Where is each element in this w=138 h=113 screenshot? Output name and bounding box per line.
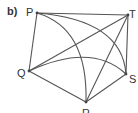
segment-QR bbox=[29, 71, 86, 102]
part-label: b) bbox=[7, 5, 18, 17]
segment-ST bbox=[126, 15, 128, 74]
label-T: T bbox=[129, 8, 136, 20]
label-P: P bbox=[26, 6, 33, 18]
label-S: S bbox=[129, 73, 136, 85]
segment-PQ bbox=[29, 13, 37, 71]
vertex-P bbox=[36, 12, 39, 15]
geometry-diagram: b) P T Q S R bbox=[0, 0, 138, 113]
arcs bbox=[29, 13, 126, 102]
vertex-S bbox=[125, 73, 128, 76]
vertex-R bbox=[85, 101, 88, 104]
label-R: R bbox=[82, 107, 90, 113]
segment-RT bbox=[86, 15, 128, 102]
vertex-Q bbox=[28, 70, 31, 73]
segment-RS bbox=[86, 74, 126, 102]
segment-QT bbox=[29, 15, 128, 71]
label-Q: Q bbox=[17, 67, 26, 79]
arc-QS bbox=[29, 57, 126, 74]
